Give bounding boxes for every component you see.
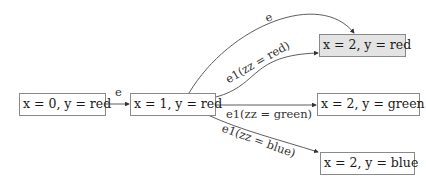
edge-label-s0-s1: e	[115, 85, 122, 99]
node-s1: x = 1, y = red	[130, 93, 216, 116]
node-s2-red: x = 2, y = red	[319, 34, 406, 57]
node-s2-blue: x = 2, y = blue	[320, 152, 415, 175]
edge-label-s1-s2green: e1(zz = green)	[226, 107, 312, 121]
node-s0: x = 0, y = red	[19, 93, 106, 116]
node-s2-green: x = 2, y = green	[317, 93, 420, 116]
state-diagram: x = 0, y = red x = 1, y = red x = 2, y =…	[0, 0, 426, 180]
